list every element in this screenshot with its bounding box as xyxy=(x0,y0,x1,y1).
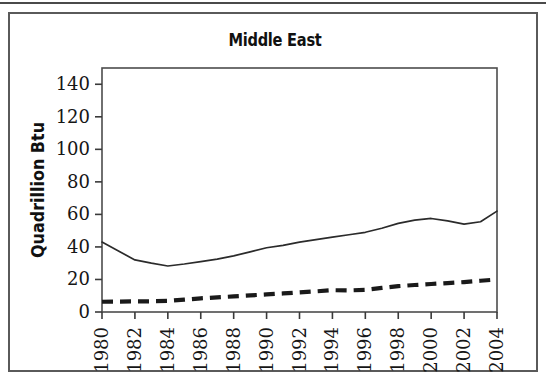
x-axis-tick-label: 2004 xyxy=(486,327,507,373)
x-axis-tick-label: 1982 xyxy=(124,327,145,373)
series-line-production xyxy=(102,211,497,266)
plot-area-border xyxy=(102,68,497,312)
x-axis-tick-label: 1992 xyxy=(289,327,310,373)
figure-page: Middle East 020406080100120140Quadrillio… xyxy=(0,0,546,384)
y-axis-tick-label: 140 xyxy=(56,73,90,94)
x-axis-tick-label: 1980 xyxy=(91,327,112,373)
y-axis-tick-label: 100 xyxy=(56,138,90,159)
x-axis-tick-label: 1986 xyxy=(190,327,211,373)
x-axis-tick-label: 1996 xyxy=(354,327,375,373)
x-axis-tick-label: 2000 xyxy=(420,327,441,373)
x-axis-tick-label: 1998 xyxy=(387,327,408,373)
y-axis-tick-label: 20 xyxy=(67,268,90,289)
x-axis-tick-label: 1994 xyxy=(321,327,342,373)
y-axis-title: Quadrillion Btu xyxy=(29,122,48,258)
y-axis-tick-label: 120 xyxy=(56,106,90,127)
y-axis-tick-label: 60 xyxy=(67,203,90,224)
page-top-rule xyxy=(0,2,546,4)
x-axis-tick-label: 1990 xyxy=(256,327,277,373)
x-axis-tick-label: 2002 xyxy=(453,327,474,373)
x-axis-tick-label: 1984 xyxy=(157,327,178,373)
y-axis-tick-label: 0 xyxy=(79,301,90,322)
series-line-consumption xyxy=(102,279,497,301)
y-axis-tick-label: 80 xyxy=(67,171,90,192)
figure-frame: Middle East 020406080100120140Quadrillio… xyxy=(8,12,538,372)
line-chart: 020406080100120140Quadrillion Btu1980198… xyxy=(10,14,540,374)
x-axis-tick-label: 1988 xyxy=(223,327,244,373)
y-axis-tick-label: 40 xyxy=(67,236,90,257)
